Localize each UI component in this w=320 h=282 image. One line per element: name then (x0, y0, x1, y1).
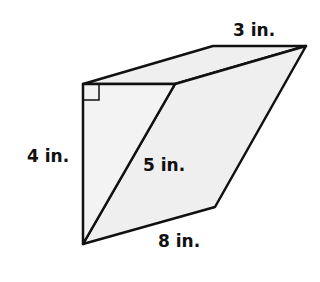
left-leg-label: 4 in. (27, 148, 69, 165)
bottom-edge-label: 8 in. (158, 233, 200, 250)
top-edge-label: 3 in. (233, 22, 275, 39)
hypotenuse-label: 5 in. (143, 157, 185, 174)
